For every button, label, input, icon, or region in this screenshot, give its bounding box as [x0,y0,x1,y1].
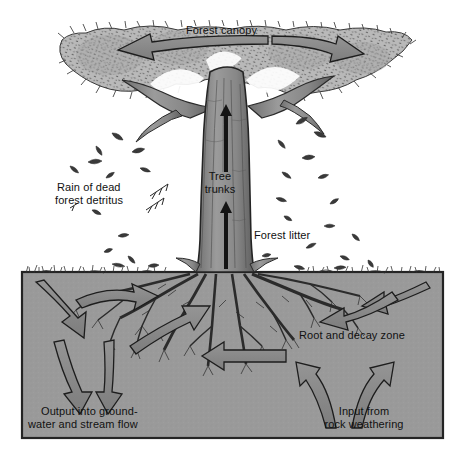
label-input-line1: Input from [309,405,419,418]
forest-nutrient-cycle-illustration [0,0,468,464]
label-forest-canopy: Forest canopy [186,24,257,37]
label-tree-trunks-line1: Tree [199,170,241,183]
label-forest-litter: Forest litter [254,229,310,242]
label-tree-trunks-line2: trunks [195,183,245,196]
label-root-and-decay-zone: Root and decay zone [299,329,405,342]
diagram-canvas: Forest canopy Tree trunks Rain of dead f… [0,0,468,464]
label-output-line2: water and stream flow [28,418,138,431]
label-detritus-line1: Rain of dead [57,181,121,194]
label-output-line1: Output into ground- [41,405,138,418]
label-detritus-line2: forest detritus [55,194,123,207]
label-input-line2: rock weathering [309,418,419,431]
